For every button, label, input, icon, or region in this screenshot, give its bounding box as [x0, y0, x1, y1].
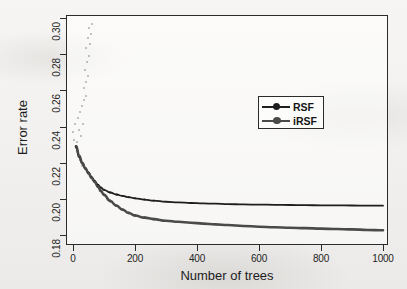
- x-tick-mark: [383, 245, 384, 251]
- legend-label-irsf: iRSF: [293, 115, 317, 127]
- y-tick-label: 0.28: [51, 53, 62, 83]
- legend-label-rsf: RSF: [293, 101, 314, 113]
- y-tick-label: 0.22: [51, 161, 62, 191]
- y-axis-title: Error rate: [15, 83, 30, 173]
- legend-entry-rsf[interactable]: RSF: [259, 99, 325, 114]
- x-tick-label: 200: [115, 253, 155, 264]
- y-tick-label: 0.26: [51, 89, 62, 119]
- x-tick-label: 1000: [363, 253, 403, 264]
- x-tick-mark: [135, 245, 136, 251]
- x-tick-label: 800: [301, 253, 341, 264]
- x-tick-label: 600: [239, 253, 279, 264]
- legend-marker-rsf-icon: [262, 101, 290, 113]
- chart-screenshot: Error rate Number of trees 0.180.200.220…: [0, 0, 407, 289]
- x-tick-mark: [197, 245, 198, 251]
- x-tick-label: 400: [177, 253, 217, 264]
- plot-frame: [66, 15, 388, 245]
- y-tick-label: 0.20: [51, 197, 62, 227]
- legend-box[interactable]: RSF iRSF: [258, 96, 324, 129]
- y-tick-label: 0.30: [51, 17, 62, 47]
- y-tick-label: 0.24: [51, 125, 62, 155]
- x-tick-mark: [259, 245, 260, 251]
- x-tick-mark: [321, 245, 322, 251]
- x-tick-mark: [73, 245, 74, 251]
- legend-marker-irsf-icon: [262, 115, 290, 127]
- x-tick-label: 0: [53, 253, 93, 264]
- legend-entry-irsf[interactable]: iRSF: [259, 113, 325, 128]
- x-axis-title: Number of trees: [66, 268, 388, 283]
